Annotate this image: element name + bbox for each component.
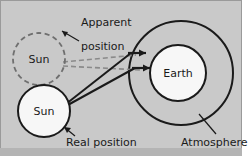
apparent-position-label: Apparent position — [67, 5, 132, 65]
arrowhead-upper — [139, 50, 146, 57]
sun-apparent-label: Sun — [29, 53, 50, 66]
earth-label: Earth — [163, 67, 193, 80]
apparent-position-line1: Apparent — [81, 16, 132, 29]
sun-real-label: Sun — [34, 105, 55, 118]
real-position-label: Real position — [66, 137, 137, 149]
atmosphere-label: Atmosphere — [181, 137, 248, 149]
arrowhead-lower — [143, 65, 150, 72]
apparent-position-line2: position — [81, 40, 125, 53]
figure-canvas: Sun Sun Earth Apparent position Real pos… — [0, 0, 249, 156]
real-ray-lower — [66, 68, 135, 106]
